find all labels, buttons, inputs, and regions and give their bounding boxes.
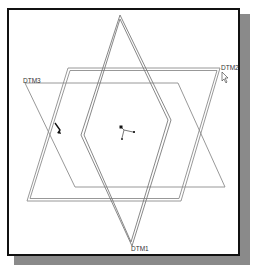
- plane-dtm2[interactable]: [27, 68, 220, 201]
- label-dtm3: DTM3: [23, 77, 41, 84]
- mouse-cursor-icon: [222, 72, 228, 83]
- coordinate-system-icon: [120, 126, 136, 141]
- label-dtm2: DTM2: [221, 64, 239, 71]
- label-dtm1: DTM1: [131, 245, 149, 252]
- plane-dtm3[interactable]: [25, 83, 225, 187]
- datum-planes-diagram: DTM3 DTM2 DTM1: [0, 0, 256, 273]
- direction-arrow-icon[interactable]: [55, 123, 61, 134]
